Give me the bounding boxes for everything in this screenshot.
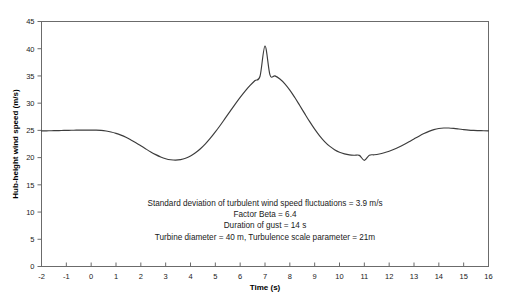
y-tick-label: 35 (26, 72, 34, 81)
y-tick-label: 15 (26, 181, 34, 190)
x-tick-label: 14 (435, 272, 443, 281)
x-tick-label: 9 (313, 272, 317, 281)
y-tick-label: 30 (26, 99, 34, 108)
y-tick-label: 20 (26, 153, 34, 162)
x-tick-label: 10 (335, 272, 343, 281)
y-tick-label: 25 (26, 126, 34, 135)
x-tick-label: 5 (213, 272, 217, 281)
x-tick-label: 13 (410, 272, 418, 281)
x-tick-label: -1 (63, 272, 70, 281)
x-tick-label: 8 (288, 272, 292, 281)
x-tick-label: 12 (385, 272, 393, 281)
y-axis-title: Hub-height wind speed (m/s) (11, 89, 20, 199)
x-tick-label: 0 (89, 272, 93, 281)
annotation-line: Turbine diameter = 40 m, Turbulence scal… (155, 233, 376, 242)
y-tick-label: 10 (26, 208, 34, 217)
y-tick-label: 5 (30, 235, 34, 244)
chart-figure: 051015202530354045 -2-101234567891011121… (0, 0, 508, 301)
x-tick-label: 11 (360, 272, 368, 281)
x-tick-label: 6 (238, 272, 242, 281)
x-tick-label: 3 (164, 272, 168, 281)
chart-background (0, 0, 508, 301)
x-tick-label: 2 (139, 272, 143, 281)
x-tick-label: 7 (263, 272, 267, 281)
y-tick-label: 0 (30, 262, 34, 271)
y-tick-label: 45 (26, 17, 34, 26)
x-tick-label: 15 (459, 272, 467, 281)
wind-gust-line-chart: 051015202530354045 -2-101234567891011121… (0, 0, 508, 301)
x-tick-label: 4 (188, 272, 192, 281)
annotation-line: Duration of gust = 14 s (224, 221, 307, 230)
y-tick-label: 40 (26, 45, 34, 54)
annotation-line: Factor Beta = 6.4 (233, 210, 296, 219)
x-tick-label: 1 (114, 272, 118, 281)
x-axis-title: Time (s) (250, 283, 281, 292)
x-tick-label: 16 (484, 272, 492, 281)
x-tick-label: -2 (38, 272, 45, 281)
annotation-line: Standard deviation of turbulent wind spe… (147, 199, 382, 208)
